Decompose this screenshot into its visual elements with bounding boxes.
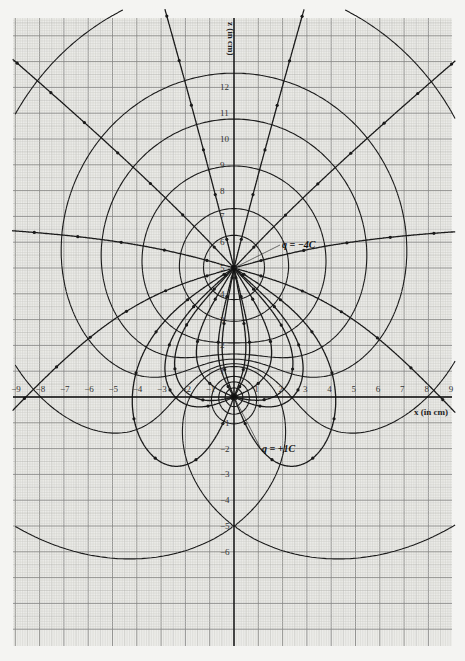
x-axis-label: x (in cm) — [414, 407, 448, 417]
svg-text:−2: −2 — [220, 444, 230, 454]
svg-text:7: 7 — [400, 384, 405, 394]
svg-text:6: 6 — [220, 237, 225, 247]
svg-text:12: 12 — [220, 82, 229, 92]
svg-text:1: 1 — [254, 384, 258, 394]
svg-text:−3: −3 — [220, 469, 230, 479]
z-axis-label: z (in cm) — [226, 22, 236, 56]
svg-text:9: 9 — [220, 160, 225, 170]
svg-text:1: 1 — [220, 366, 225, 376]
svg-text:5: 5 — [220, 263, 225, 273]
svg-text:−4: −4 — [133, 384, 143, 394]
svg-text:6: 6 — [376, 384, 381, 394]
charge-negative-label: q = −4C — [282, 239, 316, 250]
svg-text:−2: −2 — [181, 384, 191, 394]
svg-text:−1: −1 — [220, 418, 230, 428]
svg-text:−4: −4 — [220, 495, 230, 505]
svg-text:7: 7 — [220, 211, 225, 221]
svg-text:−9: −9 — [11, 384, 21, 394]
svg-text:9: 9 — [449, 384, 454, 394]
svg-text:4: 4 — [220, 289, 225, 299]
field-plot: −9−8−7−6−5−4−3−2−1123456789−6−5−4−3−2−11… — [0, 0, 465, 661]
svg-text:−3: −3 — [157, 384, 167, 394]
svg-text:4: 4 — [327, 384, 332, 394]
svg-text:2: 2 — [279, 384, 284, 394]
svg-text:2: 2 — [220, 340, 225, 350]
svg-text:−5: −5 — [109, 384, 119, 394]
svg-text:11: 11 — [220, 108, 229, 118]
svg-text:−6: −6 — [220, 547, 230, 557]
svg-text:3: 3 — [220, 315, 225, 325]
svg-text:−5: −5 — [220, 521, 230, 531]
svg-text:3: 3 — [303, 384, 308, 394]
svg-text:−7: −7 — [60, 384, 70, 394]
svg-text:5: 5 — [352, 384, 357, 394]
charge-positive-label: q = +1C — [262, 443, 295, 454]
svg-text:−1: −1 — [206, 384, 216, 394]
svg-text:−8: −8 — [36, 384, 46, 394]
svg-text:8: 8 — [220, 186, 225, 196]
svg-text:10: 10 — [220, 134, 230, 144]
svg-text:8: 8 — [424, 384, 429, 394]
svg-text:−6: −6 — [84, 384, 94, 394]
